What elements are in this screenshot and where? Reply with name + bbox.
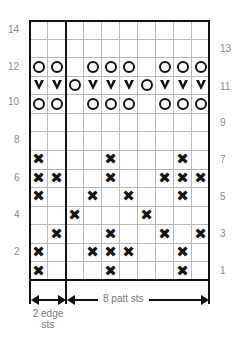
- chart-cell: ✖: [102, 170, 120, 189]
- chart-cell: [138, 188, 156, 207]
- chart-cell: [192, 151, 210, 170]
- chart-cell: [84, 170, 102, 189]
- edge-stitches-label: 2 edge sts: [30, 308, 66, 330]
- chart-cell: [30, 114, 48, 133]
- chart-cell: [84, 21, 102, 40]
- chart-cell: [30, 58, 48, 77]
- chart-cell: [30, 207, 48, 226]
- circle-symbol-icon: [51, 98, 63, 110]
- chart-cell: [192, 207, 210, 226]
- circle-symbol-icon: [105, 61, 117, 73]
- chart-cell: ✖: [192, 225, 210, 244]
- chart-cell: ✖: [30, 170, 48, 189]
- row-label-left: 10: [8, 96, 19, 107]
- chart-cell: ✖: [120, 244, 138, 263]
- chart-cell: [102, 40, 120, 59]
- chart-cell: ✖: [174, 244, 192, 263]
- chart-cell: [156, 151, 174, 170]
- row-label-left: 4: [14, 209, 20, 220]
- chart-cell: [174, 132, 192, 151]
- chart-cell: [120, 132, 138, 151]
- cross-symbol-icon: ✖: [32, 245, 45, 260]
- circle-symbol-icon: [105, 98, 117, 110]
- chart-cell: [138, 244, 156, 263]
- cross-symbol-icon: ✖: [176, 189, 189, 204]
- chart-cell: [192, 21, 210, 40]
- chart-cell: ✖: [102, 244, 120, 263]
- row-label-right: 1: [220, 265, 226, 276]
- circle-symbol-icon: [195, 61, 207, 73]
- chart-cell: [156, 21, 174, 40]
- chart-cell: [102, 95, 120, 114]
- chart-cell: [48, 58, 66, 77]
- chart-cell: [156, 188, 174, 207]
- chart-cell: [156, 244, 174, 263]
- circle-symbol-icon: [123, 61, 135, 73]
- chart-bottom-border: [29, 279, 210, 281]
- chart-cell: [102, 114, 120, 133]
- row-label-right: 9: [220, 117, 226, 128]
- cross-symbol-icon: ✖: [68, 208, 81, 223]
- chart-cell: [66, 151, 84, 170]
- chart-cell: [120, 114, 138, 133]
- circle-symbol-icon: [33, 61, 45, 73]
- cross-symbol-icon: ✖: [176, 152, 189, 167]
- cross-symbol-icon: ✖: [176, 245, 189, 260]
- chart-cell: [138, 225, 156, 244]
- chart-cell: [120, 151, 138, 170]
- cross-symbol-icon: ✖: [176, 264, 189, 279]
- chart-cell: [120, 170, 138, 189]
- chart-cell: [192, 77, 210, 96]
- chart-cell: [156, 77, 174, 96]
- cross-symbol-icon: ✖: [86, 189, 99, 204]
- chart-cell: [156, 114, 174, 133]
- chart-cell: [66, 114, 84, 133]
- chart-cell: ✖: [48, 225, 66, 244]
- circle-symbol-icon: [159, 61, 171, 73]
- chart-cell: [102, 207, 120, 226]
- chart-cell: [48, 95, 66, 114]
- circle-symbol-icon: [195, 98, 207, 110]
- row-label-left: 2: [14, 246, 20, 257]
- chart-cell: [192, 40, 210, 59]
- chart-cell: [66, 225, 84, 244]
- chart-cell: [102, 132, 120, 151]
- circle-symbol-icon: [177, 61, 189, 73]
- chart-cell: ✖: [102, 225, 120, 244]
- circle-symbol-icon: [51, 61, 63, 73]
- chart-cell: [84, 207, 102, 226]
- chart-cell: [84, 95, 102, 114]
- chart-cell: ✖: [30, 188, 48, 207]
- chart-cell: [120, 58, 138, 77]
- chart-cell: [66, 40, 84, 59]
- chart-cell: [174, 207, 192, 226]
- chart-cell: [120, 21, 138, 40]
- v-symbol-icon: [160, 80, 170, 90]
- cross-symbol-icon: ✖: [104, 171, 117, 186]
- chart-cell: [192, 244, 210, 263]
- cross-symbol-icon: ✖: [158, 171, 171, 186]
- chart-cell: [48, 40, 66, 59]
- row-label-right: 5: [220, 191, 226, 202]
- chart-cell: [48, 207, 66, 226]
- chart-cell: [138, 95, 156, 114]
- chart-cell: [174, 21, 192, 40]
- chart-cell: [30, 21, 48, 40]
- chart-cell: [138, 77, 156, 96]
- cross-symbol-icon: ✖: [32, 171, 45, 186]
- circle-symbol-icon: [141, 79, 153, 91]
- chart-cell: [174, 114, 192, 133]
- v-symbol-icon: [88, 80, 98, 90]
- v-symbol-icon: [52, 80, 62, 90]
- chart-grid: ✖✖✖✖✖✖✖✖✖✖✖✖✖✖✖✖✖✖✖✖✖✖✖✖✖✖✖: [30, 21, 210, 281]
- chart-cell: [174, 40, 192, 59]
- chart-cell: [84, 58, 102, 77]
- row-label-left: 6: [14, 172, 20, 183]
- row-label-left: 8: [14, 134, 20, 145]
- chart-cell: ✖: [48, 170, 66, 189]
- chart-cell: [192, 114, 210, 133]
- chart-cell: ✖: [30, 151, 48, 170]
- chart-cell: [84, 77, 102, 96]
- chart-cell: [156, 132, 174, 151]
- chart-cell: [138, 58, 156, 77]
